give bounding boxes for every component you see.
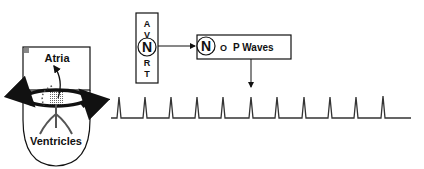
sinus-node-marker — [24, 48, 29, 53]
avnrt-diagram: Atria Ventricles A V N R T N O P Waves — [0, 0, 424, 169]
svg-text:A: A — [144, 19, 151, 29]
avnrt-box: A V N R T — [136, 13, 158, 83]
ecg-trace — [111, 96, 411, 118]
no-p-waves-box: N O P Waves — [197, 35, 291, 59]
heart-diagram: Atria Ventricles — [23, 47, 90, 166]
svg-text:T: T — [144, 69, 150, 79]
svg-text:R: R — [144, 58, 151, 68]
svg-text:N: N — [142, 39, 152, 55]
ventricles-label: Ventricles — [30, 135, 82, 147]
svg-text:O: O — [220, 43, 227, 53]
atria-label: Atria — [44, 52, 70, 64]
svg-text:N: N — [201, 38, 211, 54]
svg-text:P Waves: P Waves — [233, 42, 274, 53]
